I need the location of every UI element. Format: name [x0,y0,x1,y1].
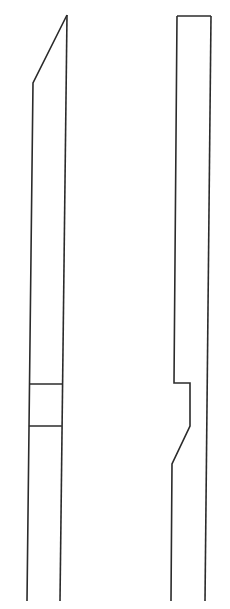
left-strip-right-edge [60,15,67,601]
right-strip [171,16,211,601]
right-strip-left-edge-with-notch [171,16,190,601]
diagram-canvas [0,0,230,609]
right-strip-right-edge [205,16,211,601]
left-strip [27,15,67,601]
